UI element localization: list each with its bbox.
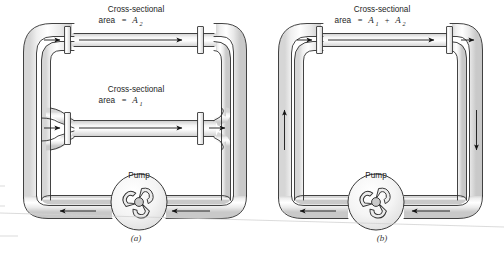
- pump-b-hub: [372, 198, 381, 207]
- label-a-A1-area-word: area: [99, 96, 116, 105]
- label-a-A1-subscript: 1: [139, 100, 142, 107]
- pump-a-hub: [135, 198, 144, 207]
- label-a-A2-equals: =: [122, 16, 127, 25]
- label-b-plus: +: [385, 16, 390, 25]
- label-a-A1-line1: Cross-sectional: [108, 85, 165, 94]
- pipe-a-inner-bottom-right: [166, 198, 226, 200]
- flange-a-mid-left: [65, 113, 71, 145]
- pipe-b-bottom-right-inner: [404, 198, 462, 200]
- label-a-A2-line1: Cross-sectional: [108, 5, 165, 14]
- pipe-a-inner-bottom-left: [46, 198, 112, 200]
- flange-b-top-left: [317, 27, 323, 54]
- label-b-subscript-2: 2: [402, 20, 405, 27]
- label-a-A1-equals: =: [122, 96, 127, 105]
- label-b-symbol-1: A: [367, 15, 374, 25]
- label-b-line1: Cross-sectional: [354, 5, 411, 14]
- pump-b-label: Pump: [365, 171, 387, 180]
- flange-a-mid-right: [198, 113, 204, 145]
- panel-b-caption: (b): [377, 233, 388, 243]
- flange-a-top-right: [198, 27, 204, 54]
- label-b-equals: =: [358, 16, 363, 25]
- label-b-subscript-1: 1: [375, 20, 378, 27]
- flange-a-top-left: [65, 27, 71, 54]
- label-a-A2-subscript: 2: [139, 20, 142, 27]
- label-b-area-word: area: [335, 16, 352, 25]
- label-b-symbol-2: A: [394, 15, 401, 25]
- pipe-a-section-A1: [72, 121, 216, 136]
- flange-b-top-right: [447, 27, 453, 54]
- panel-a-caption: (a): [131, 233, 142, 243]
- pipe-b-bottom-left-inner: [299, 198, 348, 200]
- fluid-circuit-figure: Pump Cross-sectional area = A 2 Cross-se…: [0, 0, 504, 256]
- label-a-A1-symbol: A: [131, 95, 138, 105]
- pump-a-label: Pump: [128, 171, 150, 180]
- label-a-A2-symbol: A: [131, 15, 138, 25]
- label-a-A2-area-word: area: [99, 16, 116, 25]
